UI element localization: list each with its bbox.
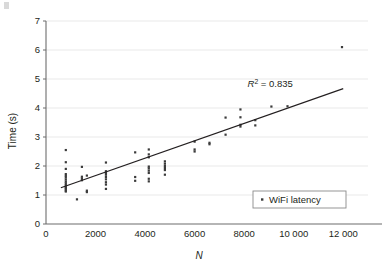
chart-container: 01234567 0200040006000800010 00012 000 R… [0,0,390,267]
data-point [105,174,107,176]
y-tick-label: 1 [35,189,40,200]
x-axis-title: N [195,250,203,261]
data-point [105,178,107,180]
data-point [148,180,150,182]
data-point [65,179,67,181]
gridlines [46,21,368,195]
data-point [148,148,150,150]
data-point-group [65,46,343,200]
data-point [341,46,343,48]
y-tick-label: 5 [35,73,40,84]
data-point [148,167,150,169]
data-point [134,176,136,178]
x-tick-label: 6000 [184,228,205,239]
data-point [76,198,78,200]
data-point [81,166,83,168]
data-point [164,163,166,165]
data-point [105,188,107,190]
data-point [148,178,150,180]
data-point [105,183,107,185]
trendline [61,89,343,188]
trendline-line [61,89,343,188]
data-point [148,153,150,155]
data-point [224,116,226,118]
scatter-plot: 01234567 0200040006000800010 00012 000 R… [0,0,390,267]
data-point [105,181,107,183]
data-point [239,108,241,110]
legend-label: WiFi latency [269,194,321,205]
x-axis-tick-labels: 0200040006000800010 00012 000 [43,228,357,239]
data-point [65,161,67,163]
y-tick-label: 3 [35,131,40,142]
data-point [65,168,67,170]
x-tick-label: 10 000 [279,228,308,239]
x-tick-label: 0 [43,228,48,239]
y-axis-title: Time (s) [7,113,18,149]
data-point [65,190,67,192]
data-point [86,191,88,193]
x-tick-label: 8000 [234,228,255,239]
x-tick-label: 4000 [135,228,156,239]
data-point [105,176,107,178]
data-point [164,160,166,162]
data-point [86,174,88,176]
data-point [148,172,150,174]
data-point [164,169,166,171]
data-point [65,149,67,151]
y-tick-label: 2 [35,160,40,171]
data-point [164,174,166,176]
r-squared-annotation: R2 = 0.835 [248,78,293,90]
data-point [208,143,210,145]
data-point [105,161,107,163]
data-point [134,180,136,182]
x-tick-label: 2000 [85,228,106,239]
y-axis-tick-labels: 01234567 [35,15,40,229]
data-point [194,150,196,152]
y-tick-label: 0 [35,218,40,229]
data-point [224,134,226,136]
y-tick-label: 6 [35,44,40,55]
data-point [65,177,67,179]
y-tick-label: 7 [35,15,40,26]
data-point [254,124,256,126]
scan-artifact [4,2,9,9]
legend-marker-icon [261,198,263,200]
data-point [134,151,136,153]
legend[interactable]: WiFi latency [253,191,346,208]
data-point [164,167,166,169]
x-tick-label: 12 000 [329,228,358,239]
data-point [164,165,166,167]
data-point [148,170,150,172]
data-point [286,105,288,107]
data-point [239,116,241,118]
data-point [270,105,272,107]
data-point [239,125,241,127]
r-squared-text: R2 = 0.835 [248,78,293,90]
y-tick-label: 4 [35,102,40,113]
data-point [194,148,196,150]
